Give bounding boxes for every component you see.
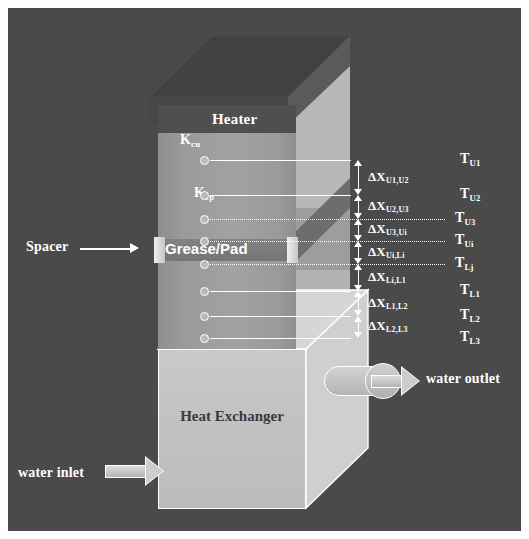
- distance-arrow-dxuili: [354, 241, 363, 264]
- distance-symbol: ΔX: [368, 318, 386, 333]
- distance-arrow-dxu1u2: [354, 160, 363, 195]
- diagram-canvas: Grease/Pad Heat Exchanger Heater Kcu Kcp…: [8, 8, 521, 531]
- distance-label-dxl2l3: ΔXL2,L3: [368, 318, 408, 334]
- arrow-shaft: [358, 296, 359, 311]
- distance-arrow-dxlil1: [354, 264, 363, 291]
- distance-symbol: ΔX: [368, 269, 386, 284]
- arrow-shaft: [358, 269, 359, 286]
- distance-symbol: ΔX: [368, 244, 386, 259]
- distance-label-dxlil1: ΔXLi,L1: [368, 269, 406, 285]
- distance-subscript: U2,U3: [386, 205, 409, 214]
- distance-subscript: U3,Ui: [386, 228, 407, 237]
- distance-arrow-dxu3ui: [354, 219, 363, 241]
- distance-label-dxu2u3: ΔXU2,U3: [368, 198, 409, 214]
- distance-symbol: ΔX: [368, 198, 386, 213]
- distance-symbol: ΔX: [368, 295, 386, 310]
- distance-subscript: Li,L1: [386, 276, 406, 285]
- distance-label-dxu3ui: ΔXU3,Ui: [368, 221, 407, 237]
- distance-label-dxu1u2: ΔXU1,U2: [368, 169, 409, 185]
- distance-subscript: U1,U2: [386, 176, 409, 185]
- distance-arrow-dxl1l2: [354, 291, 363, 316]
- figure-frame: Grease/Pad Heat Exchanger Heater Kcu Kcp…: [0, 0, 529, 539]
- distance-subscript: L1,L2: [386, 302, 408, 311]
- distance-subscript: L2,L3: [386, 325, 408, 334]
- distance-subscript: Ui,Li: [386, 251, 405, 260]
- arrow-head-down: [354, 332, 362, 338]
- distance-arrow-dxl2l3: [354, 316, 363, 338]
- arrow-shaft: [358, 165, 359, 190]
- distance-symbol: ΔX: [368, 221, 386, 236]
- distance-label-dxuili: ΔXUi,Li: [368, 244, 405, 260]
- arrow-shaft: [358, 200, 359, 214]
- distance-symbol: ΔX: [368, 169, 386, 184]
- distance-arrow-dxu2u3: [354, 195, 363, 219]
- distance-annotation-layer: ΔXU1,U2ΔXU2,U3ΔXU3,UiΔXUi,LiΔXLi,L1ΔXL1,…: [8, 8, 521, 531]
- distance-label-dxl1l2: ΔXL1,L2: [368, 295, 408, 311]
